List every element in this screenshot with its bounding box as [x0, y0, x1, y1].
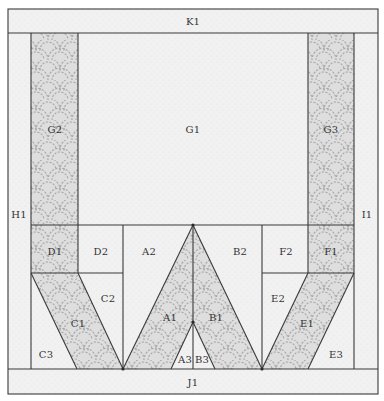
label-i1: I1	[362, 209, 373, 220]
label-b2: B2	[233, 246, 247, 257]
quilt-diagram: K1 H1 I1 J1 G1 G2 G3 D1 D2 A2 B2 F2 F1 C…	[0, 0, 384, 401]
label-a2: A2	[141, 246, 156, 257]
label-d2: D2	[94, 246, 109, 257]
label-a3: A3	[177, 354, 192, 365]
label-g2: G2	[48, 124, 63, 135]
label-g3: G3	[324, 124, 339, 135]
label-d1: D1	[48, 246, 63, 257]
label-c1: C1	[71, 318, 85, 329]
label-f1: F1	[324, 246, 338, 257]
label-e1: E1	[300, 318, 314, 329]
label-j1: J1	[187, 377, 199, 388]
label-k1: K1	[186, 16, 200, 27]
piece-g3-f1-fill	[308, 33, 354, 273]
label-c3: C3	[39, 349, 53, 360]
label-b3: B3	[195, 354, 209, 365]
label-h1: H1	[11, 209, 26, 220]
label-f2: F2	[279, 246, 293, 257]
label-g1: G1	[186, 124, 201, 135]
label-a1: A1	[162, 312, 177, 323]
label-b1: B1	[209, 312, 223, 323]
label-e2: E2	[271, 293, 285, 304]
label-e3: E3	[329, 349, 343, 360]
label-c2: C2	[101, 293, 115, 304]
piece-g2-d1-fill	[31, 33, 78, 273]
